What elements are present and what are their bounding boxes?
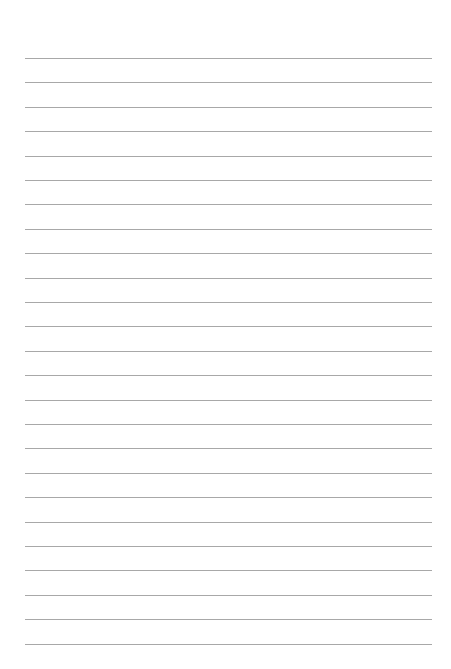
ruled-line [25, 326, 432, 327]
ruled-line [25, 619, 432, 620]
ruled-line [25, 400, 432, 401]
ruled-line [25, 204, 432, 205]
ruled-line [25, 424, 432, 425]
ruled-line [25, 82, 432, 83]
ruled-line [25, 473, 432, 474]
ruled-line [25, 180, 432, 181]
ruled-line [25, 595, 432, 596]
ruled-line [25, 522, 432, 523]
ruled-line [25, 351, 432, 352]
ruled-line [25, 131, 432, 132]
ruled-line [25, 546, 432, 547]
ruled-line [25, 497, 432, 498]
ruled-line [25, 570, 432, 571]
ruled-line [25, 644, 432, 645]
lined-paper-page [0, 0, 451, 669]
ruled-line [25, 156, 432, 157]
ruled-line [25, 448, 432, 449]
ruled-line [25, 375, 432, 376]
ruled-line [25, 107, 432, 108]
ruled-line [25, 253, 432, 254]
ruled-line [25, 58, 432, 59]
ruled-line [25, 278, 432, 279]
ruled-line [25, 229, 432, 230]
ruled-line [25, 302, 432, 303]
